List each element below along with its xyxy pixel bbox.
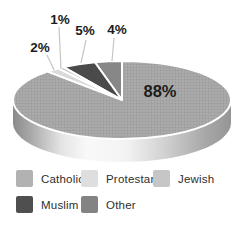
legend-label: Other	[106, 199, 136, 211]
legend-swatch-other	[81, 196, 98, 213]
pct-label-other: 4%	[107, 22, 127, 37]
pct-label-protestant: 2%	[30, 40, 50, 55]
pct-label-catholic: 88%	[143, 82, 176, 100]
pie-chart-figure: 4%5%1%2%88% CatholicProtestantJewishMusl…	[0, 0, 243, 232]
legend-swatch-catholic	[16, 170, 33, 187]
legend-label: Protestant	[106, 173, 160, 185]
legend-item-muslim: Muslim	[16, 196, 79, 213]
legend-item-catholic: Catholic	[16, 170, 84, 187]
callout-line-other	[112, 38, 114, 61]
callout-line-jewish	[59, 27, 61, 69]
legend-swatch-muslim	[16, 196, 33, 213]
pct-label-jewish: 1%	[50, 12, 70, 27]
pie-chart: 4%5%1%2%88%	[0, 0, 243, 168]
legend-item-protestant: Protestant	[81, 170, 160, 187]
legend-swatch-protestant	[81, 170, 98, 187]
callout-line-muslim	[81, 40, 86, 63]
legend-label: Catholic	[41, 173, 84, 185]
legend-swatch-jewish	[153, 170, 170, 187]
pie-slice-catholic	[13, 61, 231, 139]
callout-line-protestant	[47, 55, 54, 70]
legend-item-other: Other	[81, 196, 136, 213]
legend-label: Muslim	[41, 199, 79, 211]
legend-label: Jewish	[178, 173, 214, 185]
legend-item-jewish: Jewish	[153, 170, 214, 187]
pct-label-muslim: 5%	[75, 23, 95, 38]
